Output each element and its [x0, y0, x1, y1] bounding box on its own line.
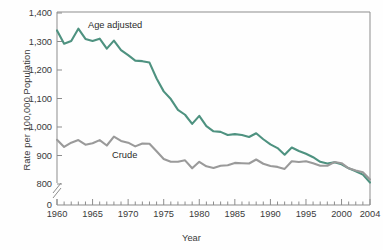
y-axis-tick-label: 1,300	[12, 37, 52, 47]
x-axis-tick-label: 2004	[347, 209, 383, 219]
series-label-age-adjusted: Age adjusted	[88, 20, 142, 30]
y-axis-tick-label: 1,000	[12, 122, 52, 132]
y-axis-tick-label: 1,200	[12, 65, 52, 75]
y-axis-tick-label: 800	[12, 179, 52, 189]
series-label-crude: Crude	[112, 150, 137, 160]
y-axis-tick-label: 1,100	[12, 94, 52, 104]
chart-figure: Rate per 100,000 Population Year 1,4001,…	[0, 0, 383, 250]
y-axis-tick-label: 900	[12, 151, 52, 161]
y-axis-tick-label: 1,400	[12, 8, 52, 18]
